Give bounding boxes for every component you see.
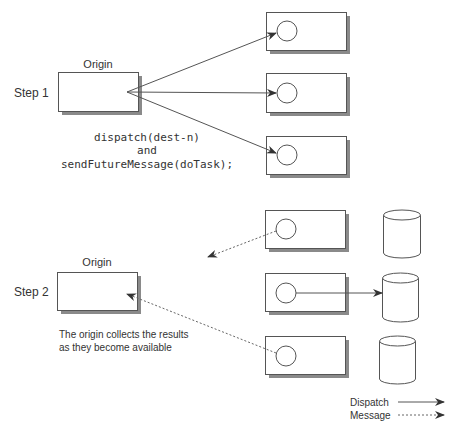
step-2-origin-label: Origin [82,256,111,268]
step-1-section: Step 1 Origin dispatch( [14,13,350,179]
step-1-destination-box-3 [267,137,351,179]
svg-text:The origin collects the result: The origin collects the results [59,329,189,340]
step-2-origin-box [58,273,142,315]
step-2-section: Step 2 Origin The origin collects the re… [14,210,421,384]
database-cylinder-icon-3 [380,336,416,384]
step-1-origin-label: Origin [83,58,112,70]
task-circle-icon [277,21,297,41]
legend-item-message: Message [350,410,444,421]
step-1-origin-box [59,73,143,116]
svg-text:Message: Message [350,410,391,421]
database-cylinder-icon-1 [384,210,421,258]
task-circle-icon [277,145,297,165]
dispatch-arrow-icon [127,33,276,92]
svg-text:Dispatch: Dispatch [350,397,389,408]
step-2-caption: The origin collects the results as they … [59,329,189,353]
dispatch-arrow-icon [127,92,276,93]
distributed-dispatch-diagram: Step 1 Origin dispatch( [0,0,459,430]
legend: Dispatch Message [350,397,444,421]
task-circle-icon [276,219,296,239]
svg-text:dispatch(dest-n): dispatch(dest-n) [94,131,200,144]
legend-item-dispatch: Dispatch [350,397,444,408]
step-1-destination-box-1 [267,13,351,55]
task-circle-icon [276,283,296,303]
step-1-code-annotation: dispatch(dest-n) and sendFutureMessage(d… [61,131,233,171]
step-2-worker-box-1 [266,211,350,253]
step-1-label: Step 1 [14,86,49,100]
svg-text:as they become available: as they become available [59,342,172,353]
svg-text:and: and [137,144,157,157]
step-2-worker-box-3 [266,337,350,379]
svg-text:sendFutureMessage(doTask);: sendFutureMessage(doTask); [61,158,233,171]
step-2-worker-box-2 [266,274,350,316]
step-1-destination-box-2 [267,74,351,117]
task-circle-icon [276,346,296,366]
task-circle-icon [277,83,297,103]
database-cylinder-icon-2 [383,273,419,322]
step-2-label: Step 2 [14,285,49,299]
